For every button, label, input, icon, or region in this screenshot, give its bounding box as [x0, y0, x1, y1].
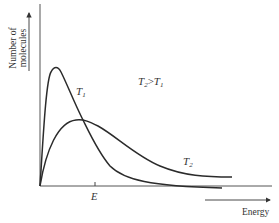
y-axis-label-line2: molecules	[18, 16, 28, 80]
y-axis-label-line1: Number of	[8, 16, 18, 80]
series-label-t1: T1	[76, 85, 86, 99]
t2-subscript: 2	[189, 161, 193, 169]
temperature-relation-annotation: T2>T1	[138, 75, 163, 89]
x-tick-label-e: E	[91, 191, 97, 202]
t1-subscript: 1	[82, 91, 86, 99]
y-axis-label: Number of molecules	[8, 16, 28, 80]
maxwell-boltzmann-chart	[0, 0, 279, 223]
x-axis-label: Energy	[242, 207, 269, 217]
series-label-t2: T2	[183, 155, 193, 169]
curve-t1	[40, 68, 222, 189]
note-t1-subscript: 1	[160, 81, 164, 89]
curve-t2	[40, 120, 232, 186]
